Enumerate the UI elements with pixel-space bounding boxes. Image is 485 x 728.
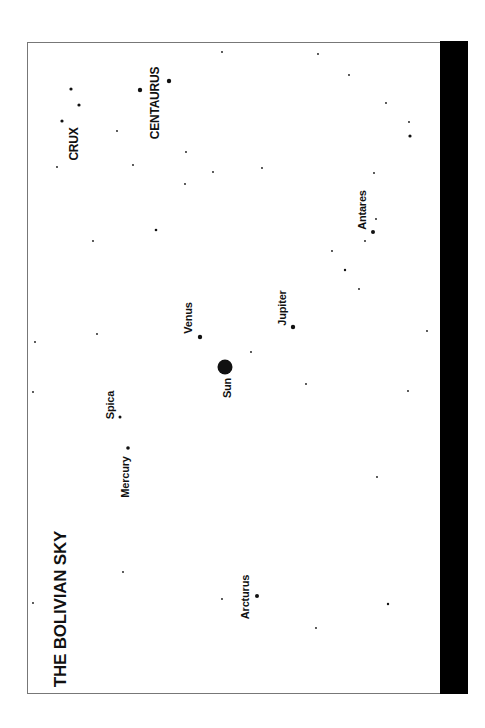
label-centaurus: CENTAURUS xyxy=(148,67,162,140)
body-crux-a xyxy=(69,87,72,90)
body-centaurus-a xyxy=(138,88,142,92)
field-star xyxy=(56,166,58,168)
field-star xyxy=(385,102,387,104)
label-mercury: Mercury xyxy=(119,456,131,497)
body-jupiter xyxy=(291,325,295,329)
label-sun: Sun xyxy=(221,378,233,398)
field-star xyxy=(132,164,134,166)
body-crux-c xyxy=(60,119,63,122)
field-star xyxy=(155,229,158,232)
field-star xyxy=(376,476,378,478)
field-star xyxy=(116,130,118,132)
field-star xyxy=(373,172,375,174)
field-star xyxy=(185,151,187,153)
field-star xyxy=(375,218,377,220)
body-centaurus-b xyxy=(167,79,171,83)
field-star xyxy=(184,183,186,185)
field-star xyxy=(221,598,223,600)
field-star xyxy=(408,121,410,123)
label-spica: Spica xyxy=(104,391,116,419)
title: THE BOLIVIAN SKY xyxy=(51,531,71,687)
field-star xyxy=(408,134,411,137)
field-star xyxy=(32,602,34,604)
field-star xyxy=(212,171,214,173)
field-star xyxy=(305,383,307,385)
label-venus: Venus xyxy=(182,302,194,333)
field-star xyxy=(92,240,94,242)
body-venus xyxy=(198,335,202,339)
label-jupiter: Jupiter xyxy=(276,290,288,325)
field-star xyxy=(315,627,317,629)
field-star xyxy=(387,603,389,605)
field-star xyxy=(261,167,263,169)
body-mercury xyxy=(126,446,130,450)
field-star xyxy=(407,390,409,392)
field-star xyxy=(358,288,360,290)
label-antares: Antares xyxy=(356,190,368,230)
field-star xyxy=(221,51,223,53)
field-star xyxy=(250,351,252,353)
field-star xyxy=(344,269,346,271)
body-crux-b xyxy=(77,103,80,106)
field-star xyxy=(34,341,36,343)
label-crux: CRUX xyxy=(67,127,81,160)
body-sun xyxy=(218,360,233,375)
field-star xyxy=(32,391,34,393)
field-star xyxy=(426,330,428,332)
body-antares xyxy=(371,230,375,234)
field-star xyxy=(96,333,98,335)
body-arcturus xyxy=(255,594,259,598)
field-star xyxy=(317,53,319,55)
field-star xyxy=(331,250,333,252)
field-star xyxy=(348,74,350,76)
body-spica xyxy=(119,416,122,419)
field-star xyxy=(364,240,366,242)
field-star xyxy=(122,571,124,573)
label-arcturus: Arcturus xyxy=(239,575,251,619)
